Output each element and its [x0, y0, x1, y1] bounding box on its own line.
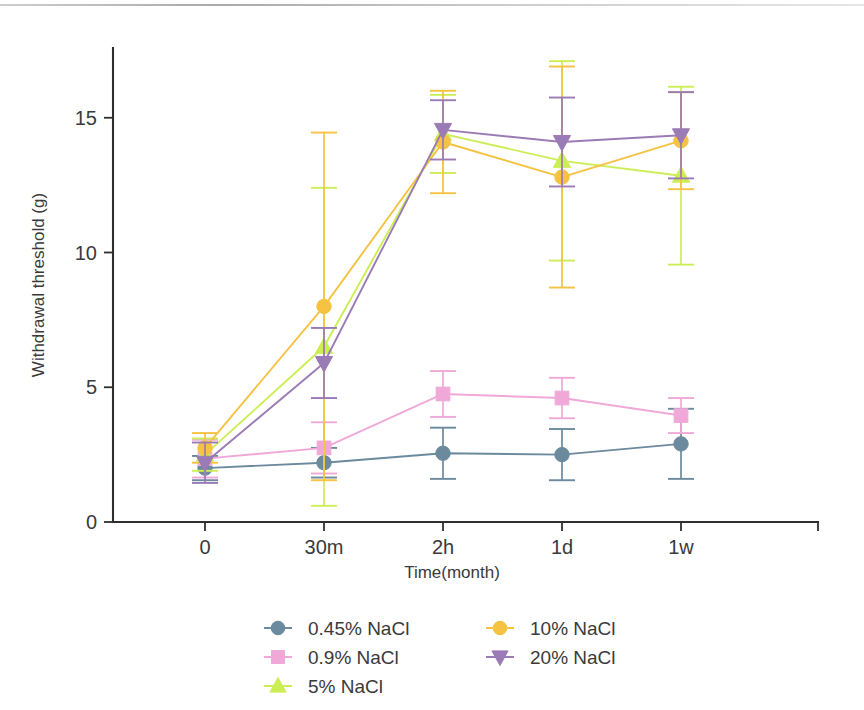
marker-square [555, 391, 569, 405]
x-axis-tick-label: 2h [432, 536, 454, 558]
marker-circle [493, 621, 507, 635]
y-axis-title: Withdrawal threshold (g) [29, 193, 48, 377]
legend-item[interactable]: 5% NaCl [264, 676, 383, 697]
y-axis-tick-label: 5 [86, 376, 97, 398]
marker-circle [555, 447, 569, 461]
legend-item-label: 0.45% NaCl [308, 618, 409, 639]
x-axis-tick-label: 0 [199, 536, 210, 558]
legend-item-label: 20% NaCl [530, 647, 616, 668]
marker-square [674, 409, 688, 423]
marker-circle [317, 299, 331, 313]
marker-square [272, 651, 285, 664]
y-axis-tick-label: 0 [86, 511, 97, 533]
series-group [192, 92, 694, 483]
legend-item[interactable]: 0.9% NaCl [264, 647, 399, 668]
legend-item[interactable]: 10% NaCl [486, 618, 616, 639]
x-axis-tick-label: 1d [551, 536, 573, 558]
marker-circle [674, 437, 688, 451]
marker-circle [436, 446, 450, 460]
figure-root: 051015030m2h1d1w Withdrawal threshold (g… [0, 0, 864, 710]
marker-triangle-down [553, 136, 570, 151]
legend-item[interactable]: 20% NaCl [486, 647, 616, 668]
withdrawal-threshold-line-chart: 051015030m2h1d1w Withdrawal threshold (g… [0, 0, 864, 710]
legend-item[interactable]: 0.45% NaCl [264, 618, 409, 639]
series-layer [192, 61, 694, 506]
series-group [192, 409, 694, 480]
legend-item-label: 10% NaCl [530, 618, 616, 639]
y-axis-tick-label: 10 [75, 242, 97, 264]
marker-triangle-down [492, 651, 508, 666]
x-axis-tick-label: 1w [668, 536, 694, 558]
marker-triangle-down [315, 357, 332, 372]
legend-item-label: 0.9% NaCl [308, 647, 399, 668]
x-axis-tick-label: 30m [305, 536, 344, 558]
marker-square [436, 387, 450, 401]
marker-circle [271, 621, 285, 635]
marker-triangle-up [270, 678, 286, 693]
legend-item-label: 5% NaCl [308, 676, 383, 697]
chart-legend: 0.45% NaCl0.9% NaCl5% NaCl10% NaCl20% Na… [264, 618, 616, 697]
x-axis-title: Time(month) [404, 563, 500, 582]
y-axis-tick-label: 15 [75, 107, 97, 129]
tick-label-layer: 051015030m2h1d1w [75, 107, 695, 558]
